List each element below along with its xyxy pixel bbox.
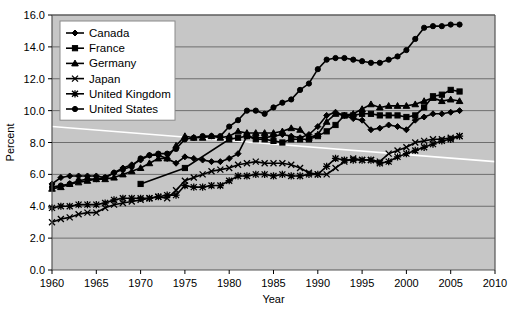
marker-asterisk: [412, 147, 419, 154]
marker-asterisk: [438, 137, 445, 144]
x-tick-label: 1985: [261, 277, 285, 289]
marker-asterisk: [394, 153, 401, 160]
marker-circle: [200, 134, 205, 139]
marker-circle: [271, 105, 276, 110]
marker-asterisk: [332, 155, 339, 162]
marker-square: [297, 137, 302, 142]
marker-asterisk: [323, 163, 330, 170]
marker-square: [368, 111, 373, 116]
marker-square: [72, 46, 77, 51]
x-tick-label: 1960: [40, 277, 64, 289]
marker-circle: [72, 106, 77, 111]
marker-circle: [342, 55, 347, 60]
marker-asterisk: [367, 156, 374, 163]
marker-asterisk: [57, 203, 64, 210]
marker-asterisk: [243, 172, 250, 179]
x-tick-label: 1980: [217, 277, 241, 289]
legend-item-label: United Kingdom: [89, 88, 171, 100]
marker-asterisk: [385, 158, 392, 165]
x-tick-label: 1995: [350, 277, 374, 289]
marker-circle: [244, 108, 249, 113]
marker-circle: [173, 146, 178, 151]
marker-circle: [395, 54, 400, 59]
marker-circle: [262, 111, 267, 116]
marker-circle: [227, 124, 232, 129]
marker-asterisk: [403, 150, 410, 157]
marker-circle: [439, 24, 444, 29]
legend-item-label: Germany: [89, 57, 137, 69]
marker-square: [439, 92, 444, 97]
x-tick-label: 1990: [306, 277, 330, 289]
marker-circle: [103, 175, 108, 180]
marker-circle: [218, 134, 223, 139]
marker-square: [253, 137, 258, 142]
marker-circle: [129, 164, 134, 169]
y-tick-label: 16.0: [24, 9, 45, 21]
marker-asterisk: [146, 195, 153, 202]
marker-square: [138, 181, 143, 186]
marker-asterisk: [288, 172, 295, 179]
marker-asterisk: [164, 191, 171, 198]
y-tick-label: 6.0: [30, 168, 45, 180]
marker-square: [324, 129, 329, 134]
marker-circle: [120, 167, 125, 172]
x-tick-label: 2000: [394, 277, 418, 289]
x-tick-label: 2010: [483, 277, 507, 289]
y-tick-label: 4.0: [30, 200, 45, 212]
marker-square: [386, 113, 391, 118]
marker-circle: [430, 24, 435, 29]
marker-asterisk: [71, 90, 78, 97]
legend-item-label: Canada: [89, 27, 130, 39]
marker-asterisk: [447, 136, 454, 143]
marker-asterisk: [155, 193, 162, 200]
marker-square: [235, 135, 240, 140]
marker-asterisk: [66, 203, 73, 210]
marker-circle: [422, 25, 427, 30]
marker-asterisk: [270, 172, 277, 179]
marker-square: [395, 113, 400, 118]
marker-asterisk: [261, 171, 268, 178]
marker-asterisk: [119, 195, 126, 202]
marker-circle: [111, 170, 116, 175]
marker-circle: [333, 55, 338, 60]
marker-asterisk: [305, 171, 312, 178]
marker-square: [377, 113, 382, 118]
marker-asterisk: [128, 195, 135, 202]
marker-circle: [289, 97, 294, 102]
legend-item-label: France: [89, 42, 125, 54]
marker-circle: [315, 67, 320, 72]
marker-asterisk: [110, 196, 117, 203]
marker-asterisk: [93, 201, 100, 208]
marker-circle: [58, 183, 63, 188]
legend-item-label: Japan: [89, 73, 120, 85]
marker-circle: [209, 134, 214, 139]
marker-circle: [253, 108, 258, 113]
marker-circle: [386, 57, 391, 62]
marker-circle: [165, 151, 170, 156]
marker-square: [448, 87, 453, 92]
y-tick-label: 8.0: [30, 137, 45, 149]
y-tick-label: 0.0: [30, 264, 45, 276]
marker-asterisk: [234, 172, 241, 179]
x-tick-label: 1975: [173, 277, 197, 289]
y-tick-label: 14.0: [24, 41, 45, 53]
marker-asterisk: [279, 171, 286, 178]
marker-asterisk: [84, 201, 91, 208]
y-axis-title: Percent: [4, 124, 16, 162]
marker-asterisk: [102, 199, 109, 206]
marker-asterisk: [341, 156, 348, 163]
marker-circle: [156, 151, 161, 156]
marker-square: [413, 113, 418, 118]
chart-container: 0.02.04.06.08.010.012.014.016.0196019651…: [0, 0, 517, 318]
marker-asterisk: [208, 182, 215, 189]
marker-asterisk: [252, 171, 259, 178]
marker-circle: [147, 153, 152, 158]
marker-square: [182, 165, 187, 170]
marker-circle: [306, 81, 311, 86]
legend-item-label: United States: [89, 103, 158, 115]
marker-square: [262, 137, 267, 142]
marker-asterisk: [421, 144, 428, 151]
marker-asterisk: [350, 156, 357, 163]
marker-square: [404, 114, 409, 119]
marker-asterisk: [199, 184, 206, 191]
